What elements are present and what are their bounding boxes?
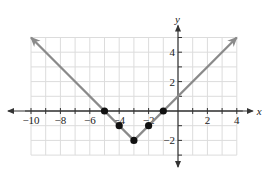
x-tick-label: 4 <box>234 114 240 126</box>
x-tick-label: −10 <box>22 114 40 126</box>
x-tick-label: −8 <box>55 114 67 126</box>
absolute-value-graph: xy −10−8−6−4−224−224 <box>0 0 271 173</box>
y-tick-label: 4 <box>170 46 176 58</box>
x-tick-label: 2 <box>205 114 211 126</box>
x-tick-label: −6 <box>84 114 96 126</box>
data-point <box>145 122 152 129</box>
x-axis-label: x <box>256 105 262 117</box>
data-point <box>160 107 167 114</box>
y-axis-label: y <box>174 13 180 25</box>
y-tick-label: −2 <box>163 134 175 146</box>
data-point <box>130 137 137 144</box>
data-point <box>101 107 108 114</box>
y-tick-label: 2 <box>170 76 176 88</box>
data-point <box>116 122 123 129</box>
